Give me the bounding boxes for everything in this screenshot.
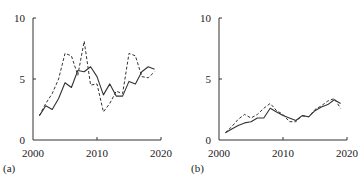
- y-tick-label: 0: [20, 134, 26, 146]
- chart-figure: 0510200020102020(a) 0510200020102020(b): [0, 0, 363, 189]
- y-tick-label: 10: [14, 12, 26, 24]
- x-tick-label: 2010: [86, 147, 109, 159]
- x-tick-label: 2020: [336, 147, 359, 159]
- chart-panel-a: 0510200020102020(a): [3, 12, 173, 175]
- panel-label: (a): [3, 162, 16, 175]
- axis-lines: [219, 18, 347, 140]
- x-tick-label: 2000: [208, 147, 231, 159]
- y-tick-label: 5: [206, 73, 212, 85]
- y-tick-label: 10: [200, 12, 212, 24]
- chart-panel-b: 0510200020102020(b): [191, 12, 359, 175]
- panel-label: (b): [191, 162, 204, 175]
- y-tick-label: 0: [206, 134, 212, 146]
- axis-lines: [33, 18, 161, 140]
- series-line-solid: [39, 67, 154, 116]
- x-tick-label: 2010: [272, 147, 295, 159]
- series-line-dashed: [39, 41, 154, 115]
- x-tick-label: 2000: [22, 147, 45, 159]
- x-tick-label: 2020: [150, 147, 173, 159]
- y-tick-label: 5: [20, 73, 26, 85]
